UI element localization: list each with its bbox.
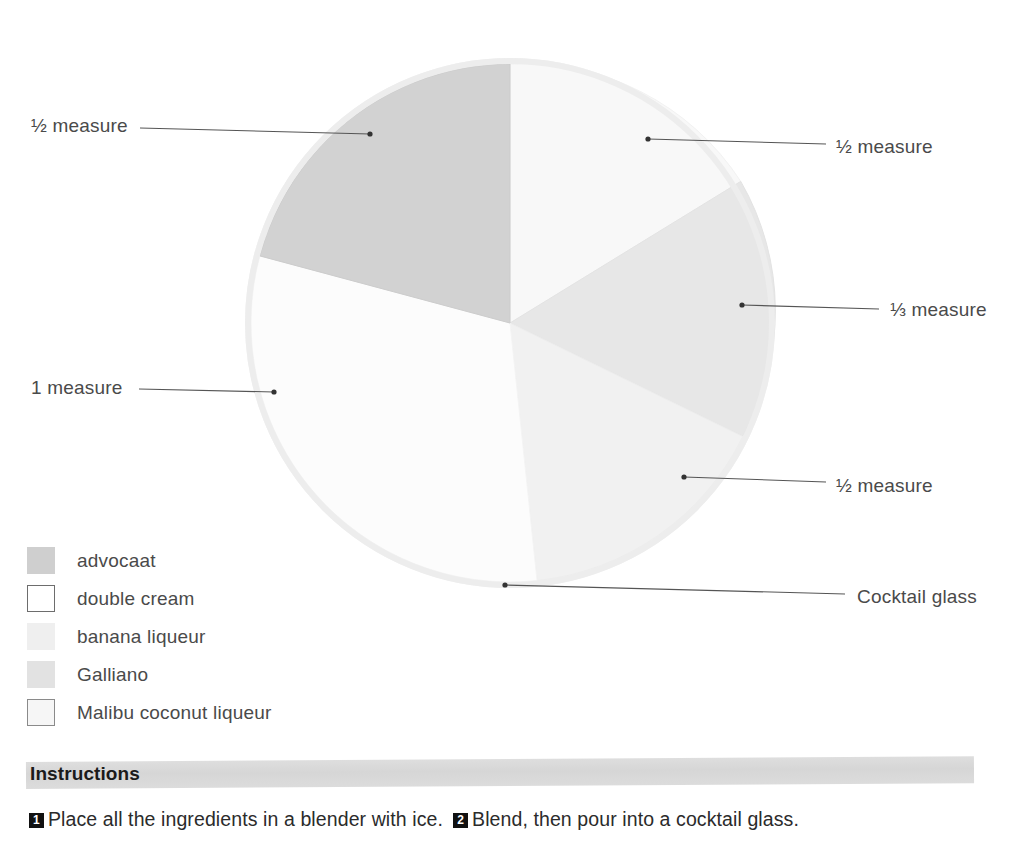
legend-label-galliano: Galliano <box>77 665 148 684</box>
callout-label-double-cream: 1 measure <box>31 377 123 399</box>
step-number-2: 2 <box>453 813 468 828</box>
legend-swatch-malibu-coconut-liqueur <box>27 699 55 726</box>
legend-item-malibu-coconut-liqueur[interactable]: Malibu coconut liqueur <box>27 693 357 731</box>
step-text-1: Place all the ingredients in a blender w… <box>48 808 443 830</box>
legend-label-banana-liqueur: banana liqueur <box>77 627 206 646</box>
legend-swatch-galliano <box>27 661 55 688</box>
callout-label-malibu-coconut-liqueur: ½ measure <box>836 136 933 158</box>
legend-item-galliano[interactable]: Galliano <box>27 655 357 693</box>
legend-item-banana-liqueur[interactable]: banana liqueur <box>27 617 357 655</box>
instructions-body: 1Place all the ingredients in a blender … <box>29 808 989 831</box>
step-number-1: 1 <box>29 813 44 828</box>
legend-item-advocaat[interactable]: advocaat <box>27 541 357 579</box>
legend-label-malibu-coconut-liqueur: Malibu coconut liqueur <box>77 703 272 722</box>
callout-label-galliano: ⅓ measure <box>890 299 987 321</box>
legend-swatch-double-cream <box>27 585 55 612</box>
recipe-page: ½ measure 1 measure ½ measure ⅓ measure … <box>0 0 1024 847</box>
instructions-title: Instructions <box>30 763 140 785</box>
legend-item-double-cream[interactable]: double cream <box>27 579 357 617</box>
legend-label-double-cream: double cream <box>77 589 195 608</box>
callout-label-cocktail-glass: Cocktail glass <box>857 586 977 608</box>
callout-label-banana-liqueur: ½ measure <box>836 475 933 497</box>
callout-label-advocaat: ½ measure <box>31 115 128 137</box>
legend-swatch-advocaat <box>27 547 55 574</box>
legend-label-advocaat: advocaat <box>77 551 156 570</box>
instructions-header-bar <box>26 756 974 789</box>
legend-swatch-banana-liqueur <box>27 623 55 650</box>
step-text-2: Blend, then pour into a cocktail glass. <box>472 808 799 830</box>
chart-legend: advocaat double cream banana liqueur Gal… <box>27 541 357 731</box>
